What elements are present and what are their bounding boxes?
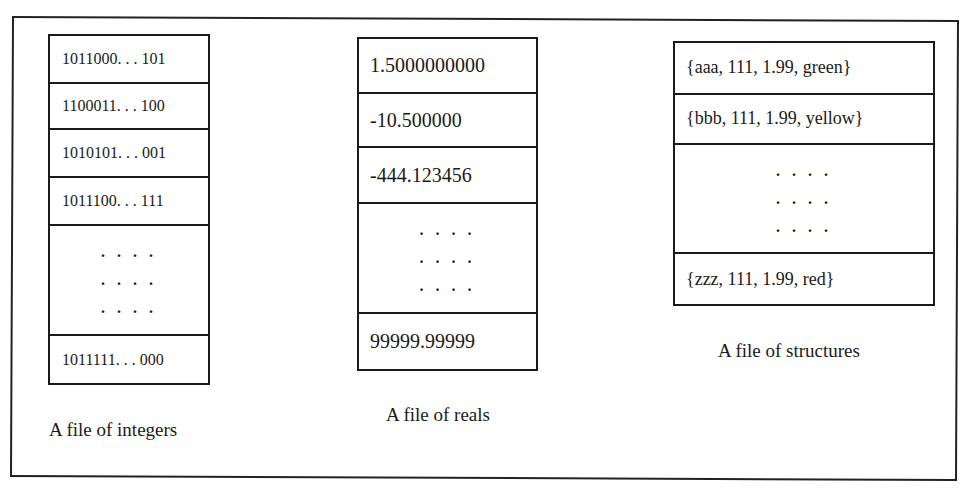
real-ellipsis-records: . . . . . . . . . . . . xyxy=(359,204,536,314)
real-record: 1.5000000000 xyxy=(359,39,536,94)
real-file-caption: A file of reals xyxy=(386,404,490,426)
structure-record: {bbb, 111, 1.99, yellow} xyxy=(675,95,933,146)
integer-record: 1011100. . . 111 xyxy=(50,178,208,226)
structure-file-box: {aaa, 111, 1.99, green} {bbb, 111, 1.99,… xyxy=(673,41,935,306)
ellipsis-dots: . . . . xyxy=(101,300,157,316)
structure-record: {aaa, 111, 1.99, green} xyxy=(675,43,933,95)
integer-record: 1011000. . . 101 xyxy=(50,36,208,84)
real-record: -444.123456 xyxy=(359,148,536,204)
ellipsis-dots: . . . . xyxy=(776,163,832,179)
ellipsis-dots: . . . . xyxy=(101,272,157,288)
real-record-last: 99999.99999 xyxy=(359,314,536,369)
ellipsis-dots: . . . . xyxy=(776,219,832,235)
structure-ellipsis-records: . . . . . . . . . . . . xyxy=(675,145,933,254)
ellipsis-dots: . . . . xyxy=(420,222,476,238)
integer-record-last: 1011111. . . 000 xyxy=(50,336,208,383)
ellipsis-dots: . . . . xyxy=(776,191,832,207)
ellipsis-dots: . . . . xyxy=(101,244,157,260)
integer-record: 1100011. . . 100 xyxy=(50,84,208,131)
integer-record: 1010101. . . 001 xyxy=(50,130,208,178)
real-file-box: 1.5000000000 -10.500000 -444.123456 . . … xyxy=(357,37,538,371)
structure-file-caption: A file of structures xyxy=(718,340,860,362)
integer-ellipsis-records: . . . . . . . . . . . . xyxy=(50,226,208,336)
structure-record-last: {zzz, 111, 1.99, red} xyxy=(675,254,933,304)
integer-file-box: 1011000. . . 101 1100011. . . 100 101010… xyxy=(48,34,210,385)
ellipsis-dots: . . . . xyxy=(420,278,476,294)
real-record: -10.500000 xyxy=(359,94,536,149)
ellipsis-dots: . . . . xyxy=(420,250,476,266)
integer-file-caption: A file of integers xyxy=(49,419,177,441)
